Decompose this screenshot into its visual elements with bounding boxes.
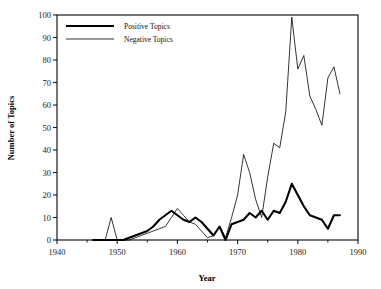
- x-tick-label: 1940: [49, 247, 66, 257]
- y-tick-label: 50: [43, 123, 52, 133]
- y-tick-label: 80: [43, 55, 52, 65]
- y-tick-label: 40: [43, 145, 52, 155]
- x-tick-label: 1950: [109, 247, 126, 257]
- y-tick-label: 100: [38, 10, 51, 20]
- y-tick-label: 60: [43, 100, 52, 110]
- y-tick-label: 10: [43, 213, 52, 223]
- y-tick-label: 20: [43, 190, 52, 200]
- legend-label-negative-topics: Negative Topics: [124, 35, 173, 44]
- x-axis-title: Year: [199, 273, 216, 283]
- y-tick-label: 0: [47, 235, 51, 245]
- x-tick-label: 1990: [350, 247, 367, 257]
- x-tick-label: 1980: [289, 247, 306, 257]
- line-chart: 0102030405060708090100 19401950196019701…: [0, 0, 381, 289]
- x-tick-label: 1960: [169, 247, 186, 257]
- y-tick-label: 90: [43, 33, 52, 43]
- y-axis-title: Number of Topics: [6, 95, 16, 160]
- y-tick-label: 70: [43, 78, 52, 88]
- x-tick-label: 1970: [229, 247, 246, 257]
- chart-container: 0102030405060708090100 19401950196019701…: [0, 0, 381, 289]
- y-tick-label: 30: [43, 168, 52, 178]
- legend-label-positive-topics: Positive Topics: [124, 22, 170, 31]
